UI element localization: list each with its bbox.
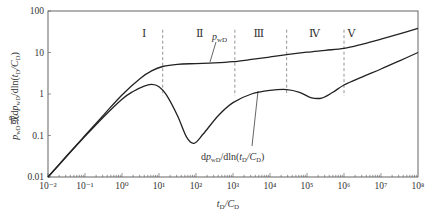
y-tick-label: 1 xyxy=(39,89,44,99)
region-labels: ⅠⅡⅢⅣⅤ xyxy=(142,27,356,39)
y-axis-title: pwD或dpwD/dln(tD/CD) xyxy=(9,52,21,141)
region-label: Ⅲ xyxy=(254,27,265,39)
x-tick-label: 10⁰ xyxy=(115,181,129,191)
pwd-leader-line xyxy=(210,42,216,62)
x-tick-label: 10⁸ xyxy=(412,181,425,191)
x-axis-title: tD/CD xyxy=(217,198,239,211)
x-tick-label: 10⁷ xyxy=(375,181,388,191)
region-label: Ⅴ xyxy=(346,27,356,39)
region-label: Ⅱ xyxy=(196,27,203,39)
y-tick-label: 0.1 xyxy=(32,131,44,141)
x-tick-label: 10³ xyxy=(227,181,240,191)
derivative-curve-label: dpwD/dln(tD/CD) xyxy=(201,151,264,163)
tick-labels: 10⁻²10⁻¹10⁰10¹10²10³10⁴10⁵10⁶10⁷10⁸0.010… xyxy=(27,6,424,191)
x-tick-label: 10⁴ xyxy=(264,181,278,191)
pwd-curve-label: pwD xyxy=(211,31,227,44)
y-tick-label: 10 xyxy=(35,48,45,58)
y-tick-label: 0.01 xyxy=(27,172,44,182)
log-log-type-curve-chart: 10⁻²10⁻¹10⁰10¹10²10³10⁴10⁵10⁶10⁷10⁸0.010… xyxy=(0,0,429,217)
derivative-leader-line xyxy=(252,91,258,146)
x-tick-label: 10² xyxy=(190,181,203,191)
x-tick-label: 10¹ xyxy=(153,181,166,191)
region-label: Ⅳ xyxy=(309,27,321,39)
x-tick-label: 10⁻¹ xyxy=(76,181,94,191)
region-boundaries xyxy=(163,30,344,96)
x-tick-label: 10⁻² xyxy=(39,181,57,191)
region-label: Ⅰ xyxy=(142,27,146,39)
x-tick-label: 10⁵ xyxy=(301,181,314,191)
y-tick-label: 100 xyxy=(30,6,45,16)
x-tick-label: 10⁶ xyxy=(338,181,351,191)
